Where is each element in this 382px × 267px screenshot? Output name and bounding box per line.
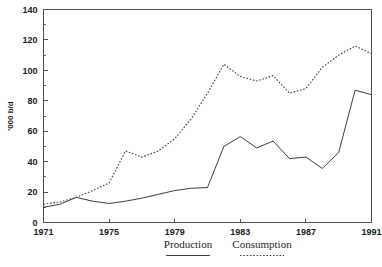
y-axis-tick-labels: 020406080100120140	[22, 5, 37, 228]
y-axis-title-text: '000 b/d	[6, 101, 15, 131]
series-consumption	[44, 46, 372, 204]
legend-label-consumption: Consumption	[232, 238, 292, 250]
y-tick-label: 60	[27, 126, 37, 136]
chart-legend: ProductionConsumption	[164, 238, 292, 256]
x-tick-label: 1983	[230, 227, 250, 237]
x-tick-label: 1979	[165, 227, 185, 237]
chart-page: 020406080100120140 197119751979198319871…	[0, 0, 382, 267]
y-tick-label: 140	[22, 5, 37, 15]
y-axis-title: '000 b/d	[6, 101, 15, 131]
series-production	[44, 90, 372, 207]
x-tick-label: 1971	[33, 227, 53, 237]
x-axis-ticks	[44, 219, 372, 223]
y-tick-label: 120	[22, 35, 37, 45]
x-tick-label: 1991	[361, 227, 381, 237]
y-tick-label: 80	[27, 96, 37, 106]
line-chart: 020406080100120140 197119751979198319871…	[0, 0, 382, 267]
x-tick-label: 1975	[99, 227, 119, 237]
y-tick-label: 40	[27, 157, 37, 167]
series-layer	[44, 46, 372, 207]
x-tick-label: 1987	[296, 227, 316, 237]
y-tick-label: 100	[22, 66, 37, 76]
legend-label-production: Production	[164, 238, 213, 250]
y-tick-label: 20	[27, 187, 37, 197]
x-axis-tick-labels: 197119751979198319871991	[33, 227, 381, 237]
plot-frame	[44, 10, 372, 223]
